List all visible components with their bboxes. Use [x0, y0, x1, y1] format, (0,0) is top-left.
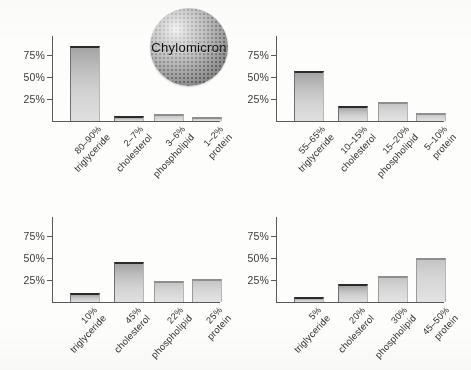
y-tick-label-25: 25%: [247, 93, 269, 105]
bar-triglyceride: [294, 71, 324, 121]
category-label-phospholipid: 3–6% phospholipid: [142, 124, 196, 180]
bar-cholesterol: [338, 106, 368, 121]
category-label-triglyceride: 5% triglyceride: [284, 305, 333, 355]
plot-area: 75% 50% 25%: [276, 36, 444, 122]
bar-triglyceride: [70, 293, 100, 302]
bar-triglyceride: [294, 297, 324, 302]
bar-cholesterol: [338, 284, 368, 302]
y-tick-label-50: 50%: [247, 252, 269, 264]
y-tick-label-75: 75%: [23, 49, 45, 61]
category-labels: 5% triglyceride 20% cholesterol 30% phos…: [276, 305, 444, 363]
category-label-phospholipid: 22% phospholipid: [140, 305, 194, 361]
category-labels: 80–90% triglyceride 2–7% cholesterol 3–6…: [52, 124, 220, 182]
category-label-triglyceride: 10% triglyceride: [60, 305, 109, 355]
bar-group: [276, 217, 444, 302]
bar-protein: [192, 117, 222, 121]
y-tick-label-25: 25%: [247, 274, 269, 286]
y-tick-label-75: 75%: [247, 230, 269, 242]
particle-label: Chylomicron: [151, 40, 227, 55]
x-axis: [52, 121, 220, 122]
panel-chylomicron: Chylomicron 75% 50% 25% 80–90% triglycer…: [0, 0, 236, 185]
y-tick-label-50: 50%: [23, 71, 45, 83]
lipoprotein-composition-figure: Chylomicron 75% 50% 25% 80–90% triglycer…: [0, 0, 471, 370]
category-label-triglyceride: 55–65% triglyceride: [288, 124, 337, 174]
category-label-phospholipid: 30% phospholipid: [364, 305, 418, 361]
bar-protein: [416, 258, 446, 302]
x-axis: [52, 302, 220, 303]
y-tick-label-25: 25%: [23, 93, 45, 105]
category-label-protein: 45–50% protein: [421, 305, 461, 346]
y-tick-label-75: 75%: [247, 49, 269, 61]
bar-protein: [192, 279, 222, 302]
y-tick-label-25: 25%: [23, 274, 45, 286]
y-tick-label-75: 75%: [23, 230, 45, 242]
category-label-protein: 5–10% protein: [422, 124, 459, 162]
panel-ldl: LDL 75% 50% 25% 10% triglyceride: [0, 185, 236, 370]
bar-group: [276, 36, 444, 121]
bar-phospholipid: [378, 276, 408, 302]
y-tick-label-50: 50%: [247, 71, 269, 83]
bar-cholesterol: [114, 262, 144, 302]
bar-triglyceride: [70, 46, 100, 121]
category-labels: 10% triglyceride 45% cholesterol 22% pho…: [52, 305, 220, 363]
x-axis: [276, 302, 444, 303]
plot-area: 75% 50% 25%: [52, 217, 220, 303]
y-tick-label-50: 50%: [23, 252, 45, 264]
plot-area: 75% 50% 25%: [276, 217, 444, 303]
category-labels: 55–65% triglyceride 10–15% cholesterol 1…: [276, 124, 444, 182]
category-label-phospholipid: 15–20% phospholipid: [366, 124, 420, 180]
bar-phospholipid: [154, 114, 184, 121]
bar-phospholipid: [154, 281, 184, 302]
category-label-protein: 25% protein: [197, 305, 234, 343]
bar-protein: [416, 113, 446, 121]
panel-vldl: VLDL 75% 50% 25% 55–65% triglyceride: [236, 0, 471, 185]
bar-cholesterol: [114, 116, 144, 121]
category-label-protein: 1–2% protein: [198, 124, 235, 162]
bar-phospholipid: [378, 102, 408, 121]
panel-hdl: HDL 75% 50% 25% 5% triglyceride: [236, 185, 471, 370]
bar-group: [52, 217, 220, 302]
category-label-triglyceride: 80–90% triglyceride: [64, 124, 113, 174]
x-axis: [276, 121, 444, 122]
